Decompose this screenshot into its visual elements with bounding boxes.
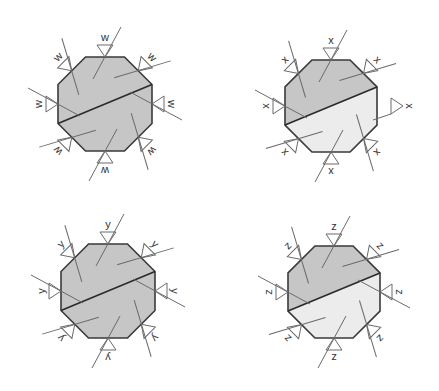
weld-label: x [278,53,291,66]
weld-label: w [50,50,65,65]
weld-label: w [166,99,178,108]
weld-label: y [54,237,67,250]
octagon-panel-z: zzzzzzzz [258,216,410,368]
weld-label: y [149,332,162,345]
weld-label: z [281,239,293,251]
weld-label: x [404,103,416,109]
octagon-panel-x: xxxxxxxx [255,30,416,182]
octagon-panel-w: wwwwwwww [28,27,182,181]
weld-label: y [35,288,47,294]
weld-label: w [145,144,160,159]
weld-label: z [331,352,337,364]
weld-label: y [54,332,67,345]
weld-label: w [51,144,66,159]
weld-label: w [145,49,160,64]
weld-label: y [149,237,162,250]
weld-label: y [105,352,111,364]
weld-label: z [374,332,386,344]
weld-label: z [281,332,293,344]
weld-label: x [371,146,384,159]
weld-label: z [262,289,274,295]
weld-label: x [278,146,291,159]
weld-label: y [105,218,111,230]
weld-label: z [331,220,337,232]
weld-label: w [32,100,44,109]
weld-symbol: x [373,98,416,120]
weld-label: x [328,166,334,178]
weld-triangle [391,98,403,114]
weld-label: y [169,288,181,294]
weld-label: x [328,34,334,46]
weld-symbol-diagram: wwwwwwwwxxxxxxxxyyyyyyyyzzzzzzzz [0,0,439,391]
weld-label: z [394,289,406,295]
weld-label: x [371,53,384,66]
weld-label: z [374,239,386,251]
octagon-panel-y: yyyyyyyy [31,214,185,368]
weld-label: w [100,31,109,43]
weld-label: x [259,103,271,109]
weld-label: w [101,165,110,177]
